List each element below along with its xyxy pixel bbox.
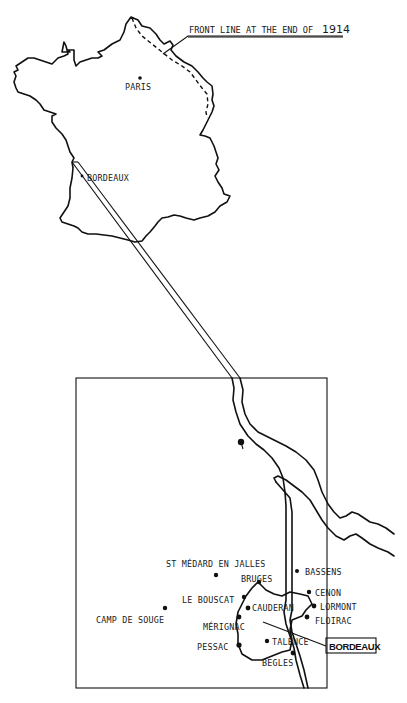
cenon-label: CENON — [315, 588, 341, 598]
begles-label: BEGLES — [262, 658, 293, 668]
begles-marker — [291, 651, 296, 656]
bassens-label: BASSENS — [305, 567, 342, 577]
pessac-marker — [236, 642, 241, 647]
front-line-leader — [163, 36, 343, 54]
front-line-year: 1914 — [322, 23, 350, 36]
le-bouscat-label: LE BOUSCAT — [182, 595, 234, 605]
lormont-label: LORMONT — [320, 602, 357, 612]
floirac-label: FLOIRAC — [315, 616, 352, 626]
floirac-marker — [305, 615, 310, 620]
merignac-marker — [237, 615, 242, 620]
camp-de-souge-marker — [163, 606, 167, 610]
st-medard-marker — [214, 573, 218, 577]
france-outline — [14, 17, 230, 242]
paris-label: PARIS — [125, 82, 151, 92]
cenon-marker — [307, 590, 311, 594]
bassens-marker — [295, 569, 299, 573]
talence-label: TALENCE — [272, 637, 309, 647]
cauderan-label: CAUDERAN — [252, 603, 294, 613]
cauderan-marker — [246, 606, 251, 611]
le-bouscat-marker — [242, 595, 246, 599]
front-line-label: FRONT LINE AT THE END OF — [189, 25, 313, 35]
bruges-label: BRUGES — [241, 574, 272, 584]
bordeaux-city-boundary — [236, 582, 312, 660]
pessac-label: PESSAC — [197, 642, 228, 652]
island-marker — [238, 439, 244, 449]
camp-de-souge-label: CAMP DE SOUGE — [96, 615, 164, 625]
talence-marker — [265, 639, 269, 643]
bordeaux-boxed-label: BORDEAUX — [329, 641, 381, 652]
paris-marker — [138, 76, 142, 80]
st-medard-label: ST MÉDARD EN JALLES — [166, 558, 266, 569]
merignac-label: MÉRIGNAC — [203, 621, 245, 632]
lormont-marker — [312, 604, 317, 609]
map-figure: FRONT LINE AT THE END OF 1914 PARIS BORD… — [0, 0, 407, 703]
projection-lines — [72, 162, 240, 378]
